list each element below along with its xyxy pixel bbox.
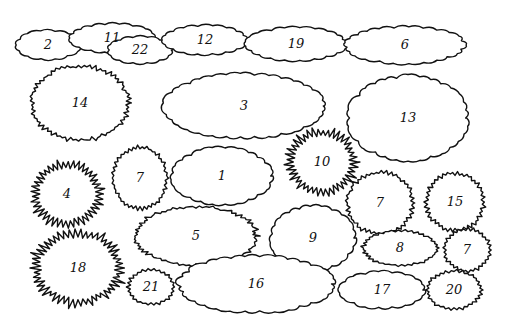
plant-22-label: 22 [131,42,149,57]
plant-15-label: 15 [447,194,464,209]
plant-9-label: 9 [309,230,317,245]
plant-20-label: 20 [445,282,463,297]
plant-8-label: 8 [396,240,404,255]
plant-shapes [15,22,491,313]
plant-6-label: 6 [401,37,409,52]
plant-3-label: 3 [240,98,248,113]
plant-19-label: 19 [288,36,305,51]
plant-2-label: 2 [43,37,52,52]
plant-1-label: 1 [218,168,226,183]
plant-11-label: 11 [104,30,121,45]
plant-18-label: 18 [70,260,87,275]
plant-14-label: 14 [72,95,89,110]
plant-10-label: 10 [314,154,331,169]
plant-16-label: 16 [248,276,265,291]
plant-13-label: 13 [400,110,417,125]
plant-5-label: 5 [192,228,200,243]
plant-7c-label: 7 [463,242,472,257]
plant-12-label: 12 [197,32,214,47]
planting-plan-diagram: 2112212196143134711071559871821161720 [0,0,508,327]
plant-7b-label: 7 [376,195,385,210]
plant-4-label: 4 [62,186,71,201]
plant-7a-label: 7 [136,170,145,185]
plant-17-label: 17 [374,282,391,297]
plant-21-label: 21 [142,279,160,294]
